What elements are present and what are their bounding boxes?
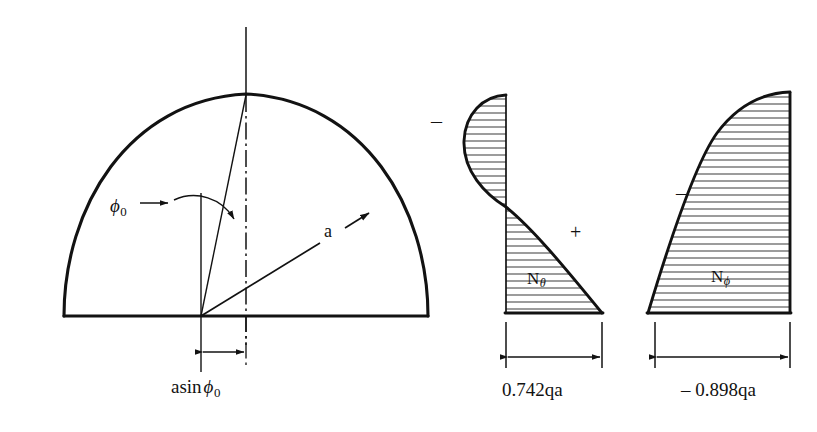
n-phi-group bbox=[640, 92, 800, 368]
radius-line-lower bbox=[201, 243, 320, 316]
n-theta-dimension-label: 0.742qa bbox=[502, 380, 563, 399]
n-phi-dimension-label: – 0.898qa bbox=[681, 380, 756, 399]
n-theta-hatch-lower bbox=[455, 211, 620, 309]
phi0-label: ϕ0 bbox=[110, 196, 127, 219]
n-phi-negative-sign: – bbox=[676, 182, 687, 204]
n-theta-label: Nθ bbox=[527, 270, 546, 289]
n-theta-negative-sign: – bbox=[431, 110, 442, 132]
asin-phi0-label: asinϕ0 bbox=[171, 377, 220, 400]
n-theta-group bbox=[455, 95, 620, 368]
radius-line-arrow bbox=[345, 213, 369, 228]
n-theta-hatch-upper bbox=[455, 99, 610, 204]
radius-label: a bbox=[324, 222, 332, 240]
n-phi-label: Nϕ bbox=[711, 268, 730, 287]
n-theta-positive-sign: + bbox=[570, 222, 581, 242]
figure-root: ϕ0 a asinϕ0 – + Nθ 0.742qa – Nϕ – 0.898q… bbox=[0, 0, 817, 432]
